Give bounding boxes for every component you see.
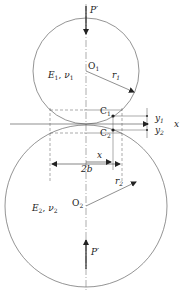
y1-tick — [146, 115, 148, 117]
y2-label: y2 — [154, 125, 164, 136]
y1-label: y1 — [154, 113, 164, 124]
center-top-label: O1 — [88, 61, 99, 72]
center-bottom-label: O2 — [72, 198, 83, 209]
x-axis-label: x — [174, 119, 179, 129]
point-c2 — [111, 128, 114, 131]
point-c2-label: C2 — [100, 128, 111, 139]
contact-diagram: P′ P′ O1 O2 r1 r2 E1, ν1 E2, ν2 C1 C2 y1… — [0, 0, 185, 295]
force-top-label: P′ — [89, 5, 98, 15]
y2-tick — [146, 129, 148, 131]
material-top-label: E1, ν1 — [47, 70, 73, 81]
radius-bottom-label: r2 — [115, 176, 123, 187]
radius-top-line — [86, 71, 134, 92]
radius-top-label: r1 — [112, 70, 120, 81]
radius-bottom-line — [86, 182, 136, 206]
origin-tick — [146, 123, 148, 125]
point-c1-label: C1 — [100, 106, 111, 117]
force-bottom-label: P′ — [90, 247, 99, 257]
point-c1 — [111, 114, 114, 117]
width-dimension-label: 2b — [80, 164, 93, 174]
material-bottom-label: E2, ν2 — [31, 203, 58, 214]
x-dimension-label: x — [97, 150, 102, 160]
